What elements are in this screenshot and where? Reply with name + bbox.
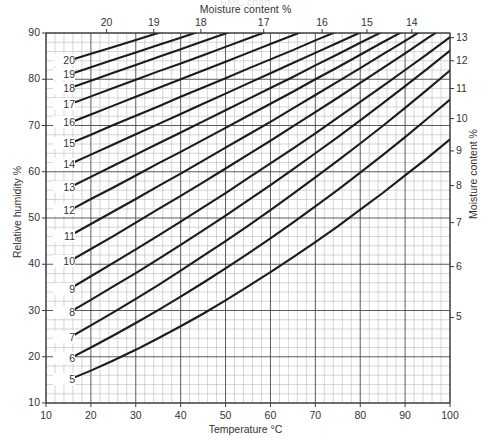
emc-curve-13: [68, 0, 450, 188]
top-axis-tick-label: 15: [352, 16, 382, 28]
curve-label-9: 9: [53, 283, 75, 295]
y-tick-label: 70: [14, 119, 40, 131]
y-tick-label: 50: [14, 211, 40, 223]
emc-curve-10: [68, 24, 450, 262]
x-tick-label: 100: [435, 409, 465, 421]
curve-label-16: 16: [53, 116, 75, 128]
emc-curve-18: [68, 0, 450, 89]
curve-label-17: 17: [53, 98, 75, 110]
top-axis-tick-label: 17: [249, 16, 279, 28]
curve-label-13: 13: [53, 181, 75, 193]
x-tick-label: 20: [76, 409, 106, 421]
emc-curve-9: [68, 37, 450, 290]
curve-label-5: 5: [53, 373, 75, 385]
right-axis-tick-label: 8: [456, 179, 482, 191]
top-axis-tick-label: 19: [139, 16, 169, 28]
x-tick-label: 40: [166, 409, 196, 421]
right-axis-tick-label: 5: [456, 310, 482, 322]
curve-group: [68, 0, 450, 380]
top-axis-tick-label: 14: [397, 16, 427, 28]
emc-curve-11: [68, 13, 450, 236]
y-tick-label: 90: [14, 26, 40, 38]
curve-label-6: 6: [53, 352, 75, 364]
x-tick-label: 60: [255, 409, 285, 421]
top-axis-tick-label: 20: [92, 16, 122, 28]
y-tick-label: 30: [14, 304, 40, 316]
top-axis-tick-label: 16: [307, 16, 337, 28]
curve-label-10: 10: [53, 255, 75, 267]
curve-label-15: 15: [53, 137, 75, 149]
right-axis-tick-label: 9: [456, 144, 482, 156]
x-tick-label: 10: [31, 409, 61, 421]
x-tick-label: 50: [211, 409, 241, 421]
y-tick-label: 10: [14, 396, 40, 408]
y-tick-label: 20: [14, 350, 40, 362]
right-axis-tick-label: 10: [456, 112, 482, 124]
y-tick-label: 80: [14, 72, 40, 84]
x-tick-label: 70: [300, 409, 330, 421]
right-axis-tick-label: 12: [456, 54, 482, 66]
emc-curve-5: [68, 139, 450, 380]
curve-label-14: 14: [53, 158, 75, 170]
right-axis-tick-label: 11: [456, 82, 482, 94]
x-tick-label: 30: [121, 409, 151, 421]
curve-label-18: 18: [53, 82, 75, 94]
curve-label-7: 7: [53, 331, 75, 343]
curve-label-11: 11: [53, 230, 75, 242]
curve-label-8: 8: [53, 306, 75, 318]
y-tick-label: 60: [14, 165, 40, 177]
x-tick-label: 80: [345, 409, 375, 421]
top-axis-tick-label: 18: [186, 16, 216, 28]
curve-label-12: 12: [53, 204, 75, 216]
y-tick-label: 40: [14, 257, 40, 269]
curve-label-20: 20: [53, 54, 75, 66]
right-axis-tick-label: 13: [456, 31, 482, 43]
curve-label-19: 19: [53, 68, 75, 80]
emc-curve-12: [68, 5, 450, 211]
emc-chart: EMC chart Moisture content % Temperature…: [0, 0, 491, 440]
right-axis-tick-label: 6: [456, 260, 482, 272]
x-tick-label: 90: [390, 409, 420, 421]
right-axis-tick-label: 7: [456, 216, 482, 228]
